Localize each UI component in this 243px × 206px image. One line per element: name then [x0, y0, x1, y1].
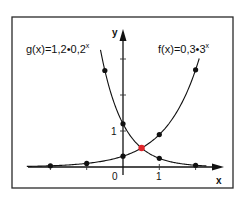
- data-point: [120, 121, 125, 126]
- data-point: [102, 68, 107, 73]
- y-tick-label-1: 1: [111, 126, 117, 137]
- exponential-functions-figure: g(x)=1,2•0,2x f(x)=0,3•3x y x 0 1 1: [0, 0, 243, 206]
- data-point: [48, 163, 53, 168]
- plot-area: g(x)=1,2•0,2x f(x)=0,3•3x y x 0 1 1: [0, 0, 243, 206]
- data-point: [193, 67, 198, 72]
- x-axis-arrow-icon: [212, 164, 224, 171]
- g-curve: [100, 50, 206, 166]
- data-point: [157, 156, 162, 161]
- origin-label: 0: [112, 171, 118, 182]
- f-function-label: f(x)=0,3•3x: [158, 42, 210, 55]
- y-axis-arrow-icon: [120, 29, 127, 41]
- data-point: [193, 163, 198, 168]
- data-point: [157, 132, 162, 137]
- x-axis-label: x: [216, 175, 222, 186]
- x-tick-label-1: 1: [156, 171, 162, 182]
- f-curve: [27, 59, 199, 167]
- g-function-label: g(x)=1,2•0,2x: [26, 42, 90, 55]
- data-point: [84, 161, 89, 166]
- function-curves: [27, 50, 207, 167]
- data-point: [120, 154, 125, 159]
- y-axis-label: y: [112, 27, 118, 38]
- intersection-point: [138, 145, 144, 151]
